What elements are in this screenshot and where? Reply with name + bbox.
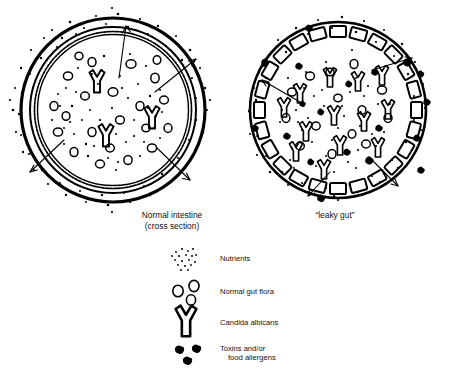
legend-label-toxins-line2: food allergens — [228, 353, 276, 362]
caption-leaky-line1: “leaky gut” — [315, 210, 354, 220]
caption-normal-line1: Normal intestine — [142, 210, 203, 220]
leaky-gut-diagram: Normal intestine (cross section) — [0, 0, 452, 379]
legend-label-toxins-line1: Toxins and/or — [220, 344, 266, 353]
legend-label-candida: Candida albicans — [220, 318, 278, 327]
legend-label-nutrients: Nutrients — [220, 254, 251, 263]
caption-normal-line2: (cross section) — [145, 221, 200, 231]
legend-label-gut-flora: Normal gut flora — [220, 287, 275, 296]
